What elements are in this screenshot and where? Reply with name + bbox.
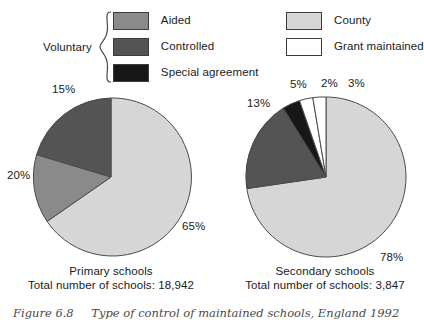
figure-caption: Figure 6.8 Type of control of maintained…	[13, 306, 399, 320]
pie-secondary-svg	[244, 95, 408, 259]
legend-label-county: County	[334, 15, 371, 27]
figure-number: Figure 6.8	[13, 306, 74, 320]
pie-secondary-label-county: 78%	[380, 252, 403, 264]
chart-caption-secondary: Secondary schools Total number of school…	[228, 264, 422, 292]
legend-item-controlled[interactable]: Controlled	[113, 34, 259, 60]
legend-label-special-agreement: Special agreement	[161, 67, 259, 79]
pie-primary-svg	[30, 96, 192, 258]
chart-title-primary: Primary schools	[69, 265, 152, 277]
pie-primary-label-county: 65%	[182, 221, 205, 233]
pie-primary-label-aided: 20%	[7, 170, 30, 182]
legend-swatch-county	[286, 12, 322, 30]
pie-secondary-label-grant-maintained: 3%	[348, 78, 365, 90]
legend-label-grant-maintained: Grant maintained	[334, 41, 424, 53]
pie-secondary-label-aided: 13%	[247, 98, 270, 110]
chart-title-secondary: Secondary schools	[276, 265, 375, 277]
pie-primary-label-controlled: 15%	[52, 84, 75, 96]
legend-label-aided: Aided	[161, 15, 191, 27]
legend-voluntary-group: Voluntary Aided Controlled Special agree…	[43, 8, 258, 86]
legend-voluntary-label: Voluntary	[43, 41, 92, 53]
figure-caption-text: Type of control of maintained schools, E…	[91, 306, 399, 320]
legend-swatch-special-agreement	[113, 64, 149, 82]
legend-swatch-grant-maintained	[286, 38, 322, 56]
pie-chart-primary-schools	[30, 96, 192, 258]
chart-total-secondary: Total number of schools: 3,847	[228, 278, 422, 292]
legend-swatch-controlled	[113, 38, 149, 56]
legend-item-aided[interactable]: Aided	[113, 8, 259, 34]
pie-secondary-label-controlled: 5%	[290, 79, 307, 91]
chart-caption-primary: Primary schools Total number of schools:…	[16, 264, 206, 292]
curly-brace-icon	[98, 11, 111, 83]
pie-chart-secondary-schools	[244, 95, 408, 259]
pie-secondary-label-special-agreement: 2%	[321, 78, 338, 90]
chart-total-primary: Total number of schools: 18,942	[16, 278, 206, 292]
legend-item-special-agreement[interactable]: Special agreement	[113, 60, 259, 86]
legend-item-grant-maintained[interactable]: Grant maintained	[286, 34, 424, 60]
legend-other-group: County Grant maintained	[286, 8, 424, 60]
legend-voluntary-items: Aided Controlled Special agreement	[113, 8, 259, 86]
legend-swatch-aided	[113, 12, 149, 30]
legend-label-controlled: Controlled	[161, 41, 214, 53]
legend-item-county[interactable]: County	[286, 8, 424, 34]
